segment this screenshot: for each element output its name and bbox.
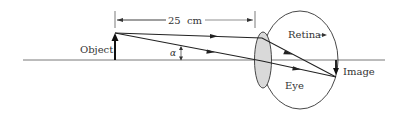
distance-label: 25 cm (168, 15, 203, 26)
angle-label: α (170, 48, 176, 58)
eye-label: Eye (285, 80, 304, 91)
image-arrow-head (333, 68, 339, 75)
object-label: Object (80, 44, 113, 55)
eye-ray-diagram: 25 cm Object α Image Retina Eye (0, 0, 404, 129)
object-arrow-head (112, 33, 119, 41)
ray-arrow-icon (210, 34, 218, 39)
ray-arrow-icon (283, 50, 293, 54)
image-label: Image (343, 66, 375, 77)
ray-arrow-icon (292, 66, 301, 70)
retina-label: Retina (288, 29, 321, 40)
